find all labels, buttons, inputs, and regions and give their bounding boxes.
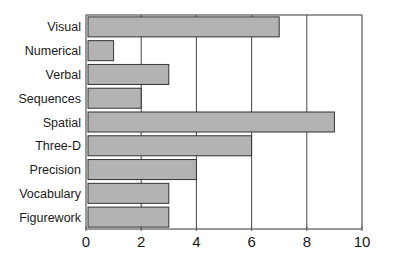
category-label: Sequences <box>18 92 81 106</box>
category-label: Three-D <box>35 139 81 153</box>
bar-verbal <box>88 64 169 84</box>
bar-sequences <box>88 88 141 108</box>
bar-three-d <box>88 136 252 156</box>
x-tick-labels: 0246810 <box>82 226 371 250</box>
bar-visual <box>88 17 279 37</box>
x-tick-label: 0 <box>82 233 90 250</box>
x-tick-label: 6 <box>247 233 255 250</box>
category-label: Numerical <box>25 44 81 58</box>
category-labels: VisualNumericalVerbalSequencesSpatialThr… <box>18 20 81 224</box>
bar-spatial <box>88 112 334 132</box>
bar-figurework <box>88 207 169 227</box>
category-label: Verbal <box>46 68 81 82</box>
bar-vocabulary <box>88 183 169 203</box>
bar-chart: VisualNumericalVerbalSequencesSpatialThr… <box>0 0 399 262</box>
bar-precision <box>88 160 196 180</box>
category-label: Visual <box>47 20 81 34</box>
category-label: Precision <box>30 163 81 177</box>
x-tick-label: 10 <box>354 233 371 250</box>
bars <box>88 17 334 227</box>
category-label: Figurework <box>19 211 82 225</box>
x-tick-label: 2 <box>137 233 145 250</box>
x-tick-label: 4 <box>192 233 200 250</box>
x-tick-label: 8 <box>303 233 311 250</box>
category-label: Vocabulary <box>19 187 82 201</box>
category-label: Spatial <box>43 116 81 130</box>
bar-numerical <box>88 41 114 61</box>
